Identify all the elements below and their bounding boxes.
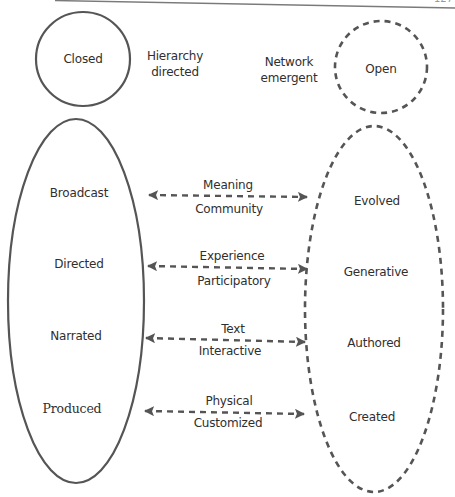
hierarchy-directed-label: Hierarchy directed [147,48,203,80]
left-item-narrated: Narrated [50,329,101,343]
left-item-directed: Directed [54,257,103,271]
arrow4-below-label: Customized [194,416,263,430]
arrow3-above-label: Text [221,322,244,336]
open-label: Open [365,62,396,76]
arrow-meaning-community [149,195,307,197]
right-item-created: Created [349,410,395,424]
network-line1: Network [261,54,318,70]
arrow1-above-label: Meaning [203,178,253,192]
closed-label: Closed [63,52,102,66]
closed-ellipse [8,119,144,483]
arrow-text-interactive [146,338,305,342]
right-item-generative: Generative [344,265,408,279]
right-item-authored: Authored [347,336,401,350]
open-ellipse [305,126,443,492]
page-rule [55,1,455,9]
left-item-broadcast: Broadcast [50,186,108,200]
diagram-closed-vs-open: 127 Closed Hierarchy directed Network em… [0,0,455,497]
right-item-evolved: Evolved [354,194,400,208]
arrow2-above-label: Experience [200,249,265,263]
arrow-physical-customized [145,411,304,414]
arrow4-above-label: Physical [205,394,252,408]
hierarchy-line2: directed [147,64,203,80]
page-number: 127 [434,0,453,4]
arrow1-below-label: Community [195,202,263,216]
network-line2: emergent [261,70,318,86]
network-emergent-label: Network emergent [261,54,318,86]
arrow2-below-label: Participatory [197,274,270,288]
arrow3-below-label: Interactive [199,344,261,358]
left-item-produced: Produced [43,402,102,416]
hierarchy-line1: Hierarchy [147,48,203,64]
arrow-experience-participatory [148,266,307,269]
